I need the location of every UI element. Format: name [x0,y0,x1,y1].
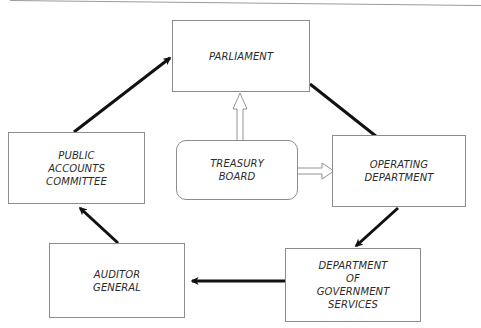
arrow-operating-to-govservices [356,208,398,246]
node-label: OPERATING DEPARTMENT [365,158,434,184]
node-label: PUBLIC ACCOUNTS COMMITTEE [46,149,107,188]
node-public-accounts-committee: PUBLIC ACCOUNTS COMMITTEE [8,132,145,204]
node-label: PARLIAMENT [209,50,273,63]
node-operating-department: OPERATING DEPARTMENT [332,135,466,207]
hollow-arrow-treasury-to-parliament [233,93,247,141]
node-treasury-board: TREASURY BOARD [176,140,298,200]
node-label: DEPARTMENT OF GOVERNMENT SERVICES [317,259,390,311]
node-label: AUDITOR GENERAL [93,268,141,294]
node-government-services: DEPARTMENT OF GOVERNMENT SERVICES [285,248,421,322]
node-auditor-general: AUDITOR GENERAL [49,243,185,318]
node-parliament: PARLIAMENT [172,20,310,92]
arrow-auditor-to-pac [80,208,118,243]
arrow-pac-to-parliament [74,58,170,132]
hollow-arrow-treasury-to-operating [298,163,334,179]
node-label: TREASURY BOARD [210,157,264,183]
